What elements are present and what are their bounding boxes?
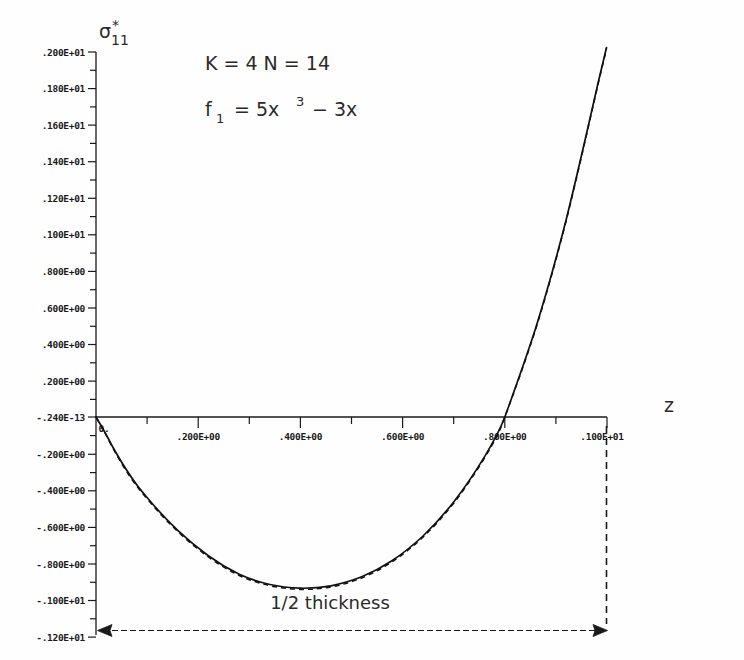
- y-tick-label: .100E+01: [42, 229, 86, 240]
- annotation-function: f 1 = 5x 3 − 3x: [205, 94, 357, 126]
- plot-page: .200E+01 .180E+01 .160E+01 .140E+01 .120…: [0, 0, 744, 660]
- x-tick-label: .100E+01: [580, 431, 624, 442]
- function-exponent: 3: [296, 94, 304, 109]
- y-axis-title-symbol: σ: [99, 20, 111, 42]
- dimension-arrow: [98, 625, 608, 637]
- y-tick-label: -.120E+01: [36, 632, 85, 643]
- y-axis-title-subscript: 11: [111, 32, 129, 48]
- y-tick-label: .160E+01: [42, 120, 86, 131]
- function-subscript: 1: [216, 111, 224, 126]
- y-tick-label: -.200E+00: [36, 449, 85, 460]
- y-tick-label: .200E+00: [42, 376, 86, 387]
- x-axis-minor-ticks: [147, 417, 556, 424]
- y-tick-label: .600E+00: [42, 303, 86, 314]
- x-tick-label: .400E+00: [279, 431, 323, 442]
- x-axis-title: z: [664, 394, 674, 416]
- x-axis-major-ticks: [198, 417, 607, 428]
- y-tick-label: .120E+01: [42, 193, 86, 204]
- y-tick-label: -.100E+01: [36, 595, 85, 606]
- dimension-arrowhead-left: [98, 625, 113, 637]
- annotation-parameters: K = 4 N = 14: [205, 52, 330, 74]
- x-tick-label: .200E+00: [177, 431, 221, 442]
- y-tick-label: .400E+00: [42, 339, 86, 350]
- y-tick-label: .200E+01: [42, 47, 86, 58]
- y-tick-label: .140E+01: [42, 156, 86, 167]
- series-approximate-curve: [96, 49, 607, 590]
- series-exact-curve: [96, 48, 607, 589]
- y-tick-label-zero: -.240E-13: [36, 412, 85, 423]
- y-axis-title: σ * 11: [99, 17, 129, 48]
- x-tick-label: .800E+00: [483, 431, 527, 442]
- function-base-symbol: f: [205, 98, 213, 120]
- y-tick-label: .180E+01: [42, 83, 86, 94]
- y-axis-title-superscript: *: [112, 17, 119, 33]
- y-axis-major-ticks: [88, 52, 96, 637]
- dimension-caption: 1/2 thickness: [270, 592, 390, 613]
- y-tick-label: -.600E+00: [36, 522, 85, 533]
- x-tick-label: .600E+00: [381, 431, 425, 442]
- function-body: = 5x: [234, 98, 279, 120]
- function-tail: − 3x: [312, 98, 357, 120]
- chart-canvas: .200E+01 .180E+01 .160E+01 .140E+01 .120…: [0, 0, 744, 660]
- y-tick-label: -.400E+00: [36, 485, 85, 496]
- y-tick-label: -.800E+00: [36, 559, 85, 570]
- dimension-arrowhead-right: [593, 625, 608, 637]
- y-tick-label: .800E+00: [42, 266, 86, 277]
